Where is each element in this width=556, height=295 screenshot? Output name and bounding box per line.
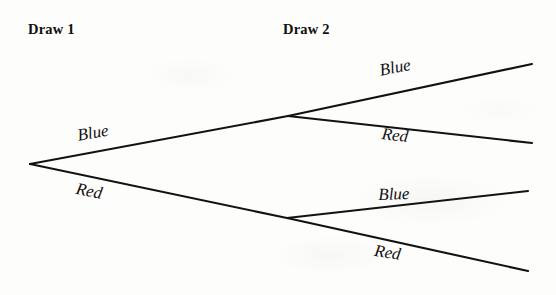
branch-label-d2-br: Red xyxy=(381,124,410,147)
branch-label-d2-rb: Blue xyxy=(378,184,410,205)
stage-heading-draw-1: Draw 1 xyxy=(28,21,75,38)
branch-1-blue xyxy=(30,116,288,164)
tree-diagram-canvas: Draw 1Draw 2 BlueRedBlueRedBlueRed xyxy=(0,0,556,295)
branch-1-red xyxy=(30,164,287,218)
stage-heading-draw-2: Draw 2 xyxy=(283,21,330,38)
tree-branch-lines xyxy=(0,0,556,295)
branch-2-red-red xyxy=(287,218,528,271)
branch-label-d2-rr: Red xyxy=(373,241,402,265)
branch-2-blue-red xyxy=(288,116,532,143)
